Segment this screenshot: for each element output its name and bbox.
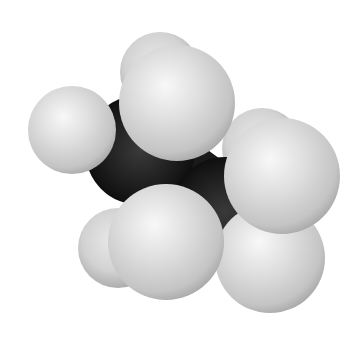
hydrogen-atom bbox=[224, 118, 340, 234]
ethane-space-filling-model bbox=[0, 0, 363, 338]
hydrogen-atom bbox=[28, 86, 116, 174]
hydrogen-atom bbox=[119, 45, 235, 161]
hydrogen-atom bbox=[108, 184, 224, 300]
